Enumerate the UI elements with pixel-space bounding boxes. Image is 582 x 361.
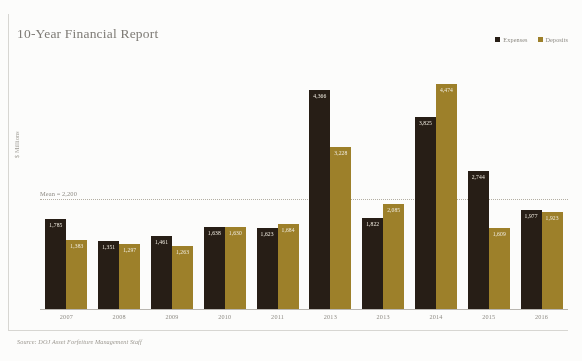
x-axis-tick-label: 2011 [251,313,304,320]
bar-wrapper: 1,684 [278,224,299,309]
x-axis-tick-label: 2016 [515,313,568,320]
bar-deposits[interactable]: 1,923 [542,212,563,309]
x-axis-tick-label: 2008 [93,313,146,320]
bar-group: 2,7441,609 [462,58,515,309]
bar-value-label: 1,785 [45,222,66,228]
bar-expenses[interactable]: 1,977 [521,210,542,309]
bar-expenses[interactable]: 4,366 [309,90,330,309]
bar-value-label: 1,822 [362,221,383,227]
bar-value-label: 1,630 [225,230,246,236]
bar-wrapper: 1,785 [45,219,66,309]
bar-value-label: 3,228 [330,150,351,156]
bar-group: 1,6231,684 [251,58,304,309]
bar-wrapper: 4,366 [309,90,330,309]
bar-wrapper: 1,822 [362,218,383,309]
bar-wrapper: 1,461 [151,236,172,309]
bar-wrapper: 1,383 [66,240,87,309]
bar-wrapper: 3,825 [415,117,436,309]
bar-value-label: 4,366 [309,93,330,99]
bar-wrapper: 1,977 [521,210,542,309]
bar-expenses[interactable]: 1,638 [204,227,225,309]
bar-group: 3,8254,474 [410,58,463,309]
legend-label-expenses: Expenses [503,36,527,43]
bar-value-label: 1,623 [257,231,278,237]
x-axis-line [40,309,568,310]
bar-value-label: 1,351 [98,244,119,250]
bar-expenses[interactable]: 1,351 [98,241,119,309]
bar-deposits[interactable]: 1,263 [172,246,193,309]
bar-value-label: 1,977 [521,213,542,219]
plot-area: Mean = 2,200 1,7851,3831,3511,2971,4611,… [40,58,568,310]
x-axis-tick-label: 2007 [40,313,93,320]
x-axis-tick-labels: 2007200820092010201120132013201420152016 [40,313,568,320]
page-frame-bottom-rule [8,330,568,331]
bar-group: 4,3663,228 [304,58,357,309]
x-axis-tick-label: 2013 [304,313,357,320]
bar-expenses[interactable]: 1,822 [362,218,383,309]
bar-wrapper: 1,623 [257,228,278,309]
x-axis-tick-label: 2013 [357,313,410,320]
chart-title: 10-Year Financial Report [17,26,158,42]
bar-groups: 1,7851,3831,3511,2971,4611,2631,6381,630… [40,58,568,309]
bar-deposits[interactable]: 1,609 [489,228,510,309]
bar-group: 1,4611,263 [146,58,199,309]
bar-value-label: 1,638 [204,230,225,236]
bar-wrapper: 4,474 [436,84,457,309]
chart-page: 10-Year Financial Report Expenses Deposi… [0,0,582,361]
bar-deposits[interactable]: 3,228 [330,147,351,309]
bar-wrapper: 2,085 [383,204,404,309]
bar-deposits[interactable]: 1,383 [66,240,87,309]
x-axis-tick-label: 2009 [146,313,199,320]
bar-deposits[interactable]: 4,474 [436,84,457,309]
bar-wrapper: 1,351 [98,241,119,309]
bar-wrapper: 1,609 [489,228,510,309]
legend-swatch-deposits-icon [538,37,543,42]
bar-expenses[interactable]: 1,623 [257,228,278,309]
bar-wrapper: 1,263 [172,246,193,309]
bar-value-label: 1,684 [278,227,299,233]
bar-wrapper: 1,297 [119,244,140,309]
bar-value-label: 2,085 [383,207,404,213]
bar-wrapper: 1,630 [225,227,246,309]
bar-value-label: 3,825 [415,120,436,126]
chart-legend: Expenses Deposits [495,36,568,43]
bar-expenses[interactable]: 1,461 [151,236,172,309]
bar-group: 1,7851,383 [40,58,93,309]
bar-wrapper: 2,744 [468,171,489,309]
bar-value-label: 4,474 [436,87,457,93]
bar-value-label: 1,461 [151,239,172,245]
bar-expenses[interactable]: 2,744 [468,171,489,309]
bar-value-label: 1,609 [489,231,510,237]
bar-value-label: 2,744 [468,174,489,180]
bar-value-label: 1,923 [542,215,563,221]
bar-group: 1,8222,085 [357,58,410,309]
bar-value-label: 1,383 [66,243,87,249]
bar-wrapper: 1,923 [542,212,563,309]
x-axis-tick-label: 2014 [410,313,463,320]
legend-item-deposits[interactable]: Deposits [538,36,568,43]
legend-item-expenses[interactable]: Expenses [495,36,527,43]
bar-wrapper: 3,228 [330,147,351,309]
bar-deposits[interactable]: 1,630 [225,227,246,309]
bar-value-label: 1,263 [172,249,193,255]
legend-swatch-expenses-icon [495,37,500,42]
bar-deposits[interactable]: 1,297 [119,244,140,309]
bar-deposits[interactable]: 2,085 [383,204,404,309]
x-axis-tick-label: 2015 [462,313,515,320]
bar-expenses[interactable]: 1,785 [45,219,66,309]
source-note: Source: DOJ Asset Forfeiture Management … [17,338,142,345]
bar-group: 1,3511,297 [93,58,146,309]
bar-group: 1,6381,630 [198,58,251,309]
x-axis-tick-label: 2010 [198,313,251,320]
y-axis-label: $ Millions [14,131,20,158]
bar-value-label: 1,297 [119,247,140,253]
bar-expenses[interactable]: 3,825 [415,117,436,309]
bar-deposits[interactable]: 1,684 [278,224,299,309]
bar-group: 1,9771,923 [515,58,568,309]
page-frame-left-rule [8,14,9,330]
bar-wrapper: 1,638 [204,227,225,309]
legend-label-deposits: Deposits [546,36,568,43]
